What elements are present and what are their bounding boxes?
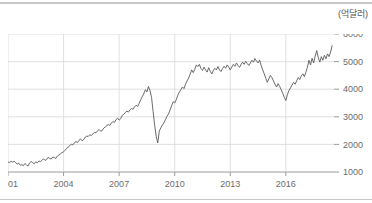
x-tick-marks bbox=[8, 34, 286, 176]
x-tick-label: 2007 bbox=[109, 179, 129, 189]
gridlines bbox=[8, 34, 339, 172]
chart-figure: (억달러) 100020003000400050006000 200120042… bbox=[0, 0, 372, 203]
x-tick-label: 2004 bbox=[54, 179, 74, 189]
top-divider bbox=[0, 2, 372, 4]
data-series-layer bbox=[8, 46, 332, 166]
x-tick-label: 2010 bbox=[165, 179, 185, 189]
line-chart-svg: 100020003000400050006000 200120042007201… bbox=[8, 34, 372, 194]
x-tick-label: 2013 bbox=[220, 179, 240, 189]
bottom-divider bbox=[0, 199, 372, 200]
y-tick-label: 5000 bbox=[343, 57, 363, 67]
y-tick-label: 1000 bbox=[343, 167, 363, 177]
x-tick-labels: 200120042007201020132016 bbox=[8, 179, 296, 189]
x-tick-label: 2016 bbox=[276, 179, 296, 189]
y-tick-label: 3000 bbox=[343, 112, 363, 122]
y-axis-unit-label: (억달러) bbox=[338, 7, 368, 20]
y-tick-label: 4000 bbox=[343, 84, 363, 94]
y-tick-label: 6000 bbox=[343, 34, 363, 39]
x-tick-label: 2001 bbox=[8, 179, 18, 189]
plot-area: 100020003000400050006000 200120042007201… bbox=[8, 34, 334, 172]
series-line bbox=[8, 46, 332, 166]
y-tick-label: 2000 bbox=[343, 140, 363, 150]
y-tick-labels: 100020003000400050006000 bbox=[343, 34, 363, 177]
